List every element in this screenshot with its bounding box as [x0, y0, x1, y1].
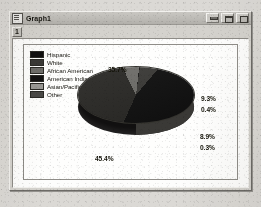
chart-frame: Hispanic White African American American…: [23, 44, 238, 180]
legend-label-asian-pacific: Asian/Pacific: [47, 83, 82, 90]
pie-chart: [78, 67, 194, 145]
pie-label-asian-pacific: 9.3%: [201, 95, 216, 103]
legend-item[interactable]: Hispanic: [30, 50, 93, 58]
toolbar: 1: [10, 25, 251, 38]
legend-swatch-american-indian: [30, 75, 44, 82]
chart-client-area: Hispanic White African American American…: [12, 38, 249, 188]
document-icon: [12, 13, 23, 24]
window-controls: [206, 13, 249, 23]
pie-surface: [78, 67, 194, 123]
legend-label-white: White: [47, 59, 63, 66]
legend-swatch-asian-pacific: [30, 83, 44, 90]
graph-window: Graph1 1 Hispanic: [9, 11, 252, 191]
close-button[interactable]: [236, 13, 249, 23]
pie-label-other: 0.4%: [201, 106, 216, 114]
window-title-bar[interactable]: Graph1: [10, 12, 251, 25]
window-title: Graph1: [26, 14, 206, 23]
restore-icon: [225, 16, 233, 23]
legend-swatch-african-american: [30, 67, 44, 74]
restore-button[interactable]: [221, 13, 234, 23]
close-icon: [240, 16, 248, 23]
scanned-page-backdrop: Graph1 1 Hispanic: [0, 0, 261, 207]
pie-label-hispanic: 35.7%: [108, 66, 126, 74]
pie-label-american-indian: 0.3%: [200, 144, 215, 152]
page-number-button[interactable]: 1: [12, 27, 22, 37]
legend-swatch-hispanic: [30, 51, 44, 58]
legend-swatch-white: [30, 59, 44, 66]
minimize-button[interactable]: [206, 13, 219, 23]
legend-swatch-other: [30, 91, 44, 98]
legend-item[interactable]: White: [30, 58, 93, 66]
minimize-icon: [210, 17, 218, 20]
pie-label-white: 45.4%: [95, 155, 113, 163]
pie-label-african-american: 8.9%: [200, 133, 215, 141]
legend-label-other: Other: [47, 91, 62, 98]
legend-label-hispanic: Hispanic: [47, 51, 70, 58]
